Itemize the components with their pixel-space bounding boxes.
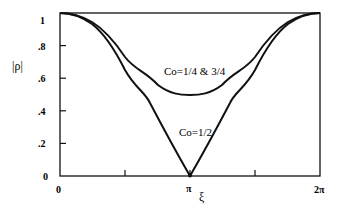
x-tick-2pi: 2π — [314, 184, 325, 195]
y-tick-labels: 0 .2 .4 .6 .8 1 — [38, 15, 48, 182]
label-co-quarter-three-quarter: Co=1/4 & 3/4 — [164, 65, 226, 77]
x-tick-0: 0 — [56, 184, 61, 195]
x-tick-labels: 0 π 2π — [56, 183, 325, 195]
y-tick-0.4: .4 — [38, 106, 46, 117]
y-tick-1: 1 — [40, 15, 45, 26]
x-tick-pi: π — [186, 183, 192, 194]
y-tick-0: 0 — [43, 171, 48, 182]
minimum-point — [188, 173, 192, 177]
y-tick-0.6: .6 — [38, 73, 46, 84]
y-axis-ticks — [60, 46, 66, 144]
curve-co-quarter-three-quarter — [60, 13, 320, 95]
label-co-half: Co=1/2 — [179, 126, 212, 138]
y-tick-0.2: .2 — [38, 138, 46, 149]
y-axis-label: |ρ| — [12, 59, 23, 73]
chart: 0 .2 .4 .6 .8 1 0 π 2π |ρ| ξ Co=1/4 & 3/… — [0, 0, 338, 212]
y-tick-0.8: .8 — [38, 41, 46, 52]
x-axis-label: ξ — [199, 190, 205, 204]
